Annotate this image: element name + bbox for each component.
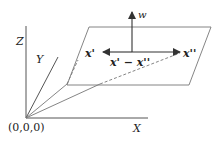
axes (26, 26, 148, 118)
x-axis-label: X (132, 122, 142, 135)
x-double-prime-label: x'' (182, 47, 196, 60)
y-axis (26, 57, 58, 118)
y-axis-label: Y (36, 53, 45, 66)
z-axis-label: Z (15, 35, 24, 48)
origin-rays (26, 53, 180, 118)
x-prime-label: x' (84, 47, 95, 60)
origin-label: (0,0,0) (8, 121, 45, 134)
difference-label: x' − x'' (109, 56, 150, 69)
diagram-canvas: Z Y X (0,0,0) w x' x'' x' − x'' (0, 0, 222, 143)
w-label: w (138, 9, 147, 20)
